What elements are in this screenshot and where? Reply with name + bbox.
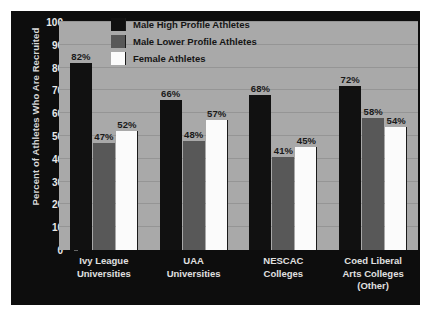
y-tick-label: 100 bbox=[29, 17, 63, 28]
y-tick-label: 0 bbox=[29, 245, 63, 256]
legend-item: Male Lower Profile Athletes bbox=[111, 34, 321, 49]
y-tick-label: 90 bbox=[29, 39, 63, 50]
x-axis-labels: Ivy LeagueUniversitiesUAAUniversitiesNES… bbox=[59, 252, 418, 304]
bar-value-label: 47% bbox=[85, 131, 123, 142]
x-axis-category-label: NESCACColleges bbox=[239, 255, 329, 280]
bar bbox=[116, 131, 138, 250]
bar bbox=[93, 143, 115, 250]
legend-label: Male High Profile Athletes bbox=[133, 19, 250, 30]
chart-figure: Percent of Athletes Who Are Recruited 10… bbox=[0, 0, 431, 322]
bar bbox=[362, 118, 384, 250]
x-axis-category-line: Colleges bbox=[239, 268, 329, 281]
y-tick-label: 20 bbox=[29, 199, 63, 210]
chart-legend: Male High Profile AthletesMale Lower Pro… bbox=[111, 17, 321, 68]
bar-value-label: 82% bbox=[62, 51, 100, 62]
x-axis-category-line: Arts Colleges bbox=[328, 268, 418, 281]
x-axis-category-line: NESCAC bbox=[239, 255, 329, 268]
legend-swatch-icon bbox=[111, 52, 126, 65]
x-axis-category-label: Ivy LeagueUniversities bbox=[59, 255, 149, 280]
x-axis-category-line: Coed Liberal bbox=[328, 255, 418, 268]
x-axis-category-line: Universities bbox=[149, 268, 239, 281]
bar bbox=[183, 141, 205, 250]
x-axis-category-line: Universities bbox=[59, 268, 149, 281]
x-axis-category-label: Coed LiberalArts Colleges(Other) bbox=[328, 255, 418, 293]
gridline bbox=[59, 89, 418, 90]
x-axis-category-line: (Other) bbox=[328, 280, 418, 293]
bar-value-label: 57% bbox=[198, 108, 236, 119]
legend-item: Female Athletes bbox=[111, 51, 321, 66]
bar bbox=[249, 95, 271, 250]
bar-value-label: 66% bbox=[152, 88, 190, 99]
legend-label: Male Lower Profile Athletes bbox=[133, 36, 257, 47]
bar-value-label: 54% bbox=[377, 115, 415, 126]
bar bbox=[70, 63, 92, 250]
chart-panel: Percent of Athletes Who Are Recruited 10… bbox=[11, 11, 420, 305]
y-tick-label: 60 bbox=[29, 108, 63, 119]
x-axis-category-label: UAAUniversities bbox=[149, 255, 239, 280]
bar bbox=[160, 100, 182, 250]
bar-value-label: 68% bbox=[241, 83, 279, 94]
bar-value-label: 48% bbox=[175, 129, 213, 140]
bar bbox=[385, 127, 407, 250]
bar bbox=[272, 157, 294, 250]
y-tick-label: 80 bbox=[29, 62, 63, 73]
y-tick-label: 10 bbox=[29, 222, 63, 233]
bar-value-label: 52% bbox=[108, 119, 146, 130]
legend-label: Female Athletes bbox=[133, 53, 206, 64]
legend-swatch-icon bbox=[111, 18, 126, 31]
y-axis-ticks: 1009080706050403020100 bbox=[29, 11, 63, 305]
bar bbox=[295, 147, 317, 250]
x-axis-category-line: Ivy League bbox=[59, 255, 149, 268]
y-tick-label: 40 bbox=[29, 153, 63, 164]
y-tick-label: 30 bbox=[29, 176, 63, 187]
x-axis-category-line: UAA bbox=[149, 255, 239, 268]
legend-swatch-icon bbox=[111, 35, 126, 48]
legend-item: Male High Profile Athletes bbox=[111, 17, 321, 32]
bar-value-label: 72% bbox=[331, 74, 369, 85]
bar-value-label: 45% bbox=[287, 135, 325, 146]
y-tick-label: 50 bbox=[29, 131, 63, 142]
y-tick-label: 70 bbox=[29, 85, 63, 96]
